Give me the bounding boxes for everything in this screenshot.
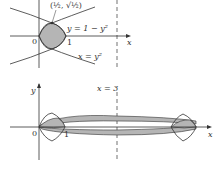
bottom-x-label: x [208,130,213,139]
curve1-label: y = 1 − y² [66,24,108,33]
x-arrow-icon [207,125,212,129]
shaded-region [39,23,66,49]
top-x-label: x [127,38,132,47]
point-label: (½, √½) [50,1,82,10]
bottom-origin-label: 0 [32,129,37,138]
bottom-plot: y x = 3 0 1 x [10,83,213,160]
point-leader [52,10,56,23]
figure-canvas: (½, √½) y = 1 − y² x = y² 0 1 x y x = 3 … [0,0,224,169]
top-origin-label: 0 [32,37,37,46]
curve2-label: x = y² [78,52,102,61]
top-plot: (½, √½) y = 1 − y² x = y² 0 1 x [10,0,132,70]
bottom-line-label: x = 3 [97,84,118,93]
bottom-one-label: 1 [64,130,69,139]
top-one-label: 1 [67,38,72,47]
y-arrow-icon [37,83,41,88]
bottom-y-label: y [30,86,36,95]
